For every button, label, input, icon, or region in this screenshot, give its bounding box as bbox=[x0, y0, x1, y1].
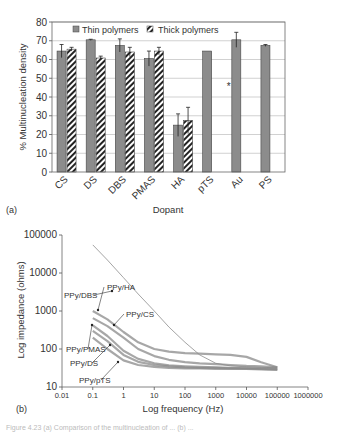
series-label-ppy-cs: PPy/CS bbox=[126, 310, 154, 319]
series-label-ppy-pts: PPy/pTS bbox=[79, 376, 111, 385]
thin-bar bbox=[203, 51, 212, 172]
x-tick-label: DS bbox=[81, 173, 99, 191]
x-tick-label: 1000000 bbox=[293, 391, 322, 400]
y-axis-title: % Multinucleation density bbox=[17, 43, 28, 150]
category-group-au bbox=[232, 32, 241, 172]
series-label-ppy-ha: PPy/HA bbox=[107, 283, 136, 292]
series-line-ppy-cs bbox=[93, 318, 277, 367]
thin-bar bbox=[115, 45, 124, 172]
series-line-ppy-ds bbox=[93, 331, 277, 370]
x-axis-title: Dopant bbox=[153, 204, 184, 215]
panel-a-label: (a) bbox=[6, 205, 17, 215]
y-tick-label: 60 bbox=[36, 54, 48, 65]
thick-bar bbox=[67, 49, 76, 172]
thick-bar bbox=[154, 51, 163, 172]
y-tick-label: 1000 bbox=[35, 305, 58, 316]
line-series bbox=[93, 245, 277, 370]
x-tick-label: PMAS bbox=[130, 173, 158, 201]
y-tick-label: 20 bbox=[36, 129, 48, 140]
series-line-ppy-pmas bbox=[93, 325, 277, 369]
annotation-arrow bbox=[92, 345, 110, 363]
legend-thick-label: Thick polymers bbox=[158, 25, 219, 35]
x-tick-label: 100 bbox=[179, 391, 192, 400]
legend-thick-swatch bbox=[147, 26, 153, 32]
series-label-ppy-ds: PPy/DS bbox=[70, 359, 98, 368]
series-line-ppy-ha bbox=[93, 311, 277, 367]
series-annotations: PPy/DBSPPy/HAPPy/CSPPy/PMASPPy/DSPPy/pTS bbox=[64, 283, 154, 385]
x-tick-label: HA bbox=[169, 173, 187, 191]
x-tick-label: 10000 bbox=[236, 391, 257, 400]
series-label-ppy-dbs: PPy/DBS bbox=[64, 291, 97, 300]
bar-series bbox=[57, 32, 270, 172]
y-tick-label: 100000 bbox=[24, 229, 58, 240]
y-tick-label: 40 bbox=[36, 92, 48, 103]
series-line-ppy-pts bbox=[93, 338, 277, 370]
annotation-arrow bbox=[94, 291, 112, 295]
x-tick-label: CS bbox=[52, 173, 70, 191]
y-tick-label: 70 bbox=[36, 35, 48, 46]
y-tick-label: 100 bbox=[40, 343, 57, 354]
legend-thin-swatch bbox=[73, 26, 79, 32]
y-tick-label: 10000 bbox=[29, 267, 57, 278]
multinucleation-bar-chart: 01020304050607080CSDSDBSPMASHApTSAuPS* T… bbox=[0, 0, 342, 215]
thin-bar bbox=[86, 40, 95, 172]
x-tick-label: 1 bbox=[121, 391, 125, 400]
x-tick-label: PS bbox=[257, 173, 274, 190]
thick-bar bbox=[96, 58, 105, 172]
y-axis-title: Log impedance (ohms) bbox=[15, 261, 26, 358]
series-line-ppy-dbs bbox=[93, 245, 277, 368]
asterisk-annotation: * bbox=[227, 81, 231, 92]
annotation-arrow bbox=[101, 362, 118, 380]
thick-bar bbox=[125, 52, 134, 172]
x-tick-label: 10 bbox=[150, 391, 158, 400]
series-label-ppy-pmas: PPy/PMAS bbox=[66, 345, 106, 354]
category-group-dbs bbox=[115, 39, 134, 172]
x-tick-label: pTS bbox=[195, 173, 216, 194]
annotation-arrow bbox=[114, 314, 124, 325]
thin-bar bbox=[144, 59, 153, 172]
category-group-cs bbox=[57, 45, 76, 173]
thin-bar bbox=[232, 40, 241, 172]
axes: 101001000100001000000.010.11101001000100… bbox=[24, 229, 323, 400]
figure-caption: Figure 4.23 (a) Comparison of the multin… bbox=[6, 424, 194, 431]
x-tick-label: 0.01 bbox=[55, 391, 70, 400]
legend-thin-label: Thin polymers bbox=[82, 25, 139, 35]
y-tick-label: 10 bbox=[36, 148, 48, 159]
thin-bar bbox=[57, 51, 66, 172]
x-tick-label: 100000 bbox=[265, 391, 290, 400]
panel-b-label: (b) bbox=[16, 404, 27, 414]
category-group-ps bbox=[261, 45, 270, 173]
y-tick-label: 10 bbox=[46, 381, 58, 392]
x-tick-label: DBS bbox=[106, 173, 129, 196]
x-tick-label: 0.1 bbox=[88, 391, 98, 400]
category-group-pts bbox=[203, 51, 212, 172]
y-tick-label: 50 bbox=[36, 73, 48, 84]
x-tick-label: Au bbox=[228, 174, 244, 190]
annotation-arrow bbox=[98, 287, 104, 310]
y-tick-label: 0 bbox=[41, 167, 47, 178]
legend: Thin polymers Thick polymers bbox=[73, 25, 219, 35]
thin-bar bbox=[261, 45, 270, 172]
annotation-arrow bbox=[88, 325, 92, 349]
y-tick-label: 80 bbox=[36, 17, 48, 28]
category-group-ha bbox=[174, 107, 193, 172]
y-tick-label: 30 bbox=[36, 110, 48, 121]
x-axis-title: Log frequency (Hz) bbox=[143, 403, 224, 414]
x-tick-label: 1000 bbox=[207, 391, 224, 400]
